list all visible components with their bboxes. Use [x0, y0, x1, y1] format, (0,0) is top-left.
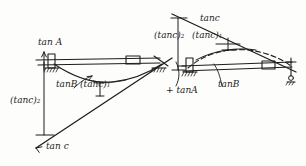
- label-right-tan-b: tanB: [218, 80, 239, 89]
- subscript-c-left: 2: [37, 98, 41, 104]
- subscript-c-right-b: 1: [219, 33, 223, 39]
- label-right-plus-tan-a: + tanA: [166, 86, 198, 95]
- right-tan-c-line: [172, 14, 296, 72]
- subscript-c-inline: 1: [107, 82, 111, 88]
- label-left-tan-a: tan A: [38, 38, 62, 47]
- label-left-tan-c-inline: (tanc)1: [80, 80, 110, 89]
- label-right-tan-c-top: tanc: [200, 14, 220, 23]
- sketch-canvas: tan A tanB (tanc)1 (tanc)2 tan c tanc (t…: [0, 0, 306, 166]
- label-right-tan-c-paren-right: (tanc)1: [192, 31, 222, 40]
- subscript-c-right-a: 2: [181, 33, 185, 39]
- right-vertical-dimension: [171, 18, 187, 70]
- label-left-tan-c-bottom: tan c: [46, 142, 69, 151]
- left-tan-c-line: [36, 58, 172, 152]
- label-left-tan-c-vertical: (tanc)2: [10, 96, 40, 105]
- label-left-tan-b: tanB: [56, 80, 77, 89]
- label-right-tan-c-paren-left: (tanc)2: [154, 31, 184, 40]
